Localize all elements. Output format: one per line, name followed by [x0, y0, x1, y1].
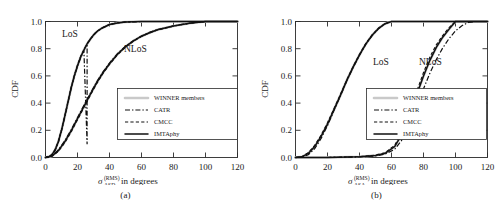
legend-label-imtaphy: IMTAphy — [403, 130, 429, 137]
y-tick-label: 0.2 — [31, 125, 42, 135]
figure-cdf-angular-spread: 0.0 0.2 0.4 0.6 0.8 1.0 0 20 40 60 80 10… — [0, 0, 502, 207]
y-tick-label: 1.0 — [31, 17, 43, 27]
x-axis-label-sup: (RMS) — [104, 175, 120, 182]
y-axis-label: CDF — [10, 80, 20, 98]
y-tick-label: 0.0 — [281, 153, 293, 163]
curve-label-nlos: NLoS — [124, 44, 147, 54]
x-tick-label: 80 — [169, 162, 179, 172]
x-tick-label: 120 — [231, 162, 245, 172]
x-tick-label: 20 — [323, 162, 333, 172]
y-tick-label: 1.0 — [281, 17, 293, 27]
x-axis-label-rest: in degrees — [121, 176, 158, 185]
legend-label-cmcc: CMCC — [403, 118, 421, 125]
x-tick-label: 100 — [449, 162, 463, 172]
legend-label-winner: WINNER members — [403, 94, 454, 101]
panel-a-plot: 0.0 0.2 0.4 0.6 0.8 1.0 0 20 40 60 80 10… — [0, 0, 251, 185]
x-axis-label-sub: ASD — [104, 182, 115, 186]
panel-a: 0.0 0.2 0.4 0.6 0.8 1.0 0 20 40 60 80 10… — [0, 0, 251, 207]
panel-b-legend: WINNER members CATR CMCC IMTAphy — [367, 89, 487, 140]
legend-label-imtaphy: IMTAphy — [154, 130, 180, 137]
panel-a-caption: (a) — [0, 190, 251, 200]
y-tick-label: 0.4 — [281, 98, 293, 108]
y-axis-label: CDF — [260, 80, 270, 98]
x-axis-label-rest: in degrees — [371, 176, 408, 185]
x-tick-label: 0 — [293, 162, 298, 172]
panel-b-x-tick-labels: 0 20 40 60 80 100 120 — [293, 162, 495, 172]
panel-a-y-tick-labels: 0.0 0.2 0.4 0.6 0.8 1.0 — [31, 17, 43, 163]
x-tick-label: 60 — [387, 162, 397, 172]
y-tick-label: 0.8 — [281, 44, 293, 54]
x-tick-label: 20 — [73, 162, 83, 172]
x-tick-label: 60 — [137, 162, 147, 172]
y-tick-label: 0.6 — [281, 71, 293, 81]
panel-b: 0.0 0.2 0.4 0.6 0.8 1.0 0 20 40 60 80 10… — [251, 0, 502, 207]
x-tick-label: 0 — [43, 162, 48, 172]
x-tick-label: 100 — [199, 162, 213, 172]
curve-label-nlos: NLoS — [419, 57, 442, 67]
x-tick-label: 80 — [419, 162, 429, 172]
x-axis-label-sigma: σ — [348, 176, 353, 185]
panel-a-legend: WINNER members CATR CMCC IMTAphy — [118, 89, 238, 140]
y-tick-label: 0.4 — [31, 98, 43, 108]
x-axis-label: σ (RMS) ASD in degrees — [98, 175, 158, 186]
x-axis-label-sup: (RMS) — [354, 175, 370, 182]
legend-label-catr: CATR — [403, 106, 420, 113]
curve-label-los: LoS — [373, 57, 389, 67]
panel-b-caption: (b) — [251, 190, 502, 200]
legend-label-winner: WINNER members — [154, 94, 205, 101]
panel-a-x-tick-labels: 0 20 40 60 80 100 120 — [43, 162, 245, 172]
x-axis-label: σ (RMS) ASA in degrees — [348, 175, 408, 186]
y-tick-label: 0.6 — [31, 71, 43, 81]
y-tick-label: 0.8 — [31, 44, 43, 54]
x-tick-label: 40 — [105, 162, 115, 172]
panel-b-plot: 0.0 0.2 0.4 0.6 0.8 1.0 0 20 40 60 80 10… — [251, 0, 502, 185]
x-tick-label: 120 — [481, 162, 495, 172]
x-tick-label: 40 — [355, 162, 365, 172]
y-tick-label: 0.0 — [31, 153, 43, 163]
panel-b-y-tick-labels: 0.0 0.2 0.4 0.6 0.8 1.0 — [281, 17, 293, 163]
curve-label-los: LoS — [62, 29, 78, 39]
legend-label-cmcc: CMCC — [154, 118, 172, 125]
x-axis-label-sigma: σ — [98, 176, 103, 185]
y-tick-label: 0.2 — [281, 125, 292, 135]
legend-label-catr: CATR — [154, 106, 171, 113]
x-axis-label-sub: ASA — [354, 182, 365, 186]
